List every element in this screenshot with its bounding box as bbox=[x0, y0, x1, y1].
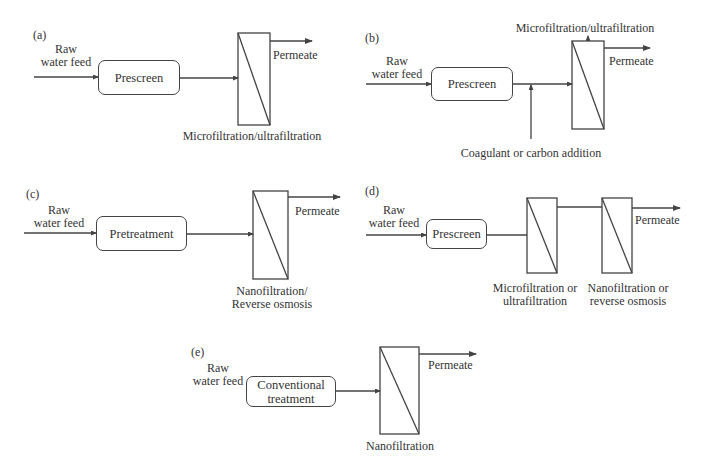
prescreen-label: Prescreen bbox=[432, 227, 481, 241]
panel-d-label: (d) bbox=[365, 185, 379, 198]
membrane-label: Microfiltration/ultrafiltration bbox=[183, 130, 322, 143]
pretreatment-box: Pretreatment bbox=[96, 216, 187, 251]
feed-label-water-feed: water feed bbox=[369, 217, 419, 230]
prescreen-label: Prescreen bbox=[115, 71, 164, 85]
feed-label-water-feed: water feed bbox=[34, 217, 84, 230]
panel-c-label: (c) bbox=[26, 188, 39, 201]
membrane-diagonal bbox=[602, 198, 632, 273]
membrane-diagonal bbox=[527, 198, 557, 273]
membrane-label: Microfiltration/ultrafiltration bbox=[516, 22, 655, 35]
membrane-diagonal bbox=[238, 33, 270, 125]
membrane-label: Nanofiltration bbox=[366, 440, 434, 453]
membrane1-label-line2: ultrafiltration bbox=[503, 295, 567, 308]
permeate-label: Permeate bbox=[428, 359, 473, 372]
panel-e-label: (e) bbox=[191, 346, 204, 359]
permeate-label: Permeate bbox=[295, 205, 340, 218]
membrane-diagonal bbox=[380, 347, 419, 434]
permeate-label: Permeate bbox=[609, 55, 654, 68]
panel-d-flow bbox=[366, 198, 680, 273]
prescreen-label: Prescreen bbox=[448, 77, 497, 91]
feed-label-water-feed: water feed bbox=[372, 68, 422, 81]
coagulant-addition-label: Coagulant or carbon addition bbox=[461, 147, 601, 160]
conventional-treatment-label: Conventional treatment bbox=[257, 378, 324, 406]
prescreen-box: Prescreen bbox=[431, 67, 513, 101]
permeate-label: Permeate bbox=[635, 214, 680, 227]
membrane-diagonal bbox=[572, 41, 604, 129]
prescreen-box: Prescreen bbox=[426, 219, 487, 249]
panel-b-label: (b) bbox=[365, 32, 379, 45]
membrane-label-line2: Reverse osmosis bbox=[232, 298, 312, 311]
feed-label-water-feed: water feed bbox=[193, 375, 243, 388]
membrane-diagonal bbox=[253, 191, 288, 279]
panel-a-label: (a) bbox=[33, 29, 46, 42]
conventional-treatment-box: Conventional treatment bbox=[246, 376, 336, 407]
prescreen-box: Prescreen bbox=[98, 60, 180, 95]
feed-label-water-feed: water feed bbox=[41, 56, 91, 69]
permeate-label: Permeate bbox=[273, 49, 318, 62]
membrane2-label-line2: reverse osmosis bbox=[590, 295, 666, 308]
pretreatment-label: Pretreatment bbox=[110, 227, 174, 241]
